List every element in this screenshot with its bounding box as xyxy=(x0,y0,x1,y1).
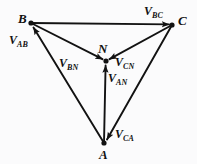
node-label-C: C xyxy=(178,14,187,27)
vector-label-V_BN-symbol: V xyxy=(59,56,67,70)
vector-label-V_BN-subscript: BN xyxy=(67,63,79,72)
node-dot-A xyxy=(101,140,106,145)
vector-label-V_BN: VBN xyxy=(59,57,79,69)
phasor-diagram-figure: B C A N VAB VBC VCA VBN VCN VAN xyxy=(0,0,197,164)
vector-label-V_CN: VCN xyxy=(115,56,135,68)
vector-label-V_CA-symbol: V xyxy=(115,127,123,141)
vector-label-V_AB-symbol: V xyxy=(9,33,17,47)
vector-label-V_AB-subscript: AB xyxy=(17,40,28,49)
vector-line-V_AN xyxy=(104,66,106,144)
node-label-A: A xyxy=(99,148,108,161)
vector-label-V_CN-subscript: CN xyxy=(123,62,135,71)
node-dot-C xyxy=(169,22,174,27)
vector-label-V_AN-subscript: AN xyxy=(116,78,128,87)
vector-line-V_BC xyxy=(31,23,169,24)
node-dot-N xyxy=(103,58,108,63)
vector-label-V_CA: VCA xyxy=(115,128,134,140)
vector-label-V_BC: VBC xyxy=(144,5,163,17)
vector-label-V_AB: VAB xyxy=(9,34,28,46)
vector-label-V_BC-subscript: BC xyxy=(152,11,163,20)
node-dot-B xyxy=(28,20,33,25)
vector-label-V_CA-subscript: CA xyxy=(123,134,134,143)
node-label-B: B xyxy=(18,12,27,25)
vector-line-V_AB xyxy=(34,28,105,144)
vector-label-V_CN-symbol: V xyxy=(115,55,123,69)
vector-label-V_AN: VAN xyxy=(108,72,128,84)
phasor-diagram-canvas xyxy=(0,0,197,164)
node-label-N: N xyxy=(98,42,107,55)
vector-label-V_AN-symbol: V xyxy=(108,71,116,85)
vector-label-V_BC-symbol: V xyxy=(144,4,152,18)
